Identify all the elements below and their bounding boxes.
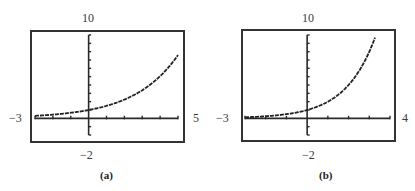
- xmax-label-a: 5: [193, 112, 199, 124]
- xmin-label-a: −3: [9, 112, 22, 124]
- caption-a: (a): [100, 170, 113, 181]
- graph-b-plot: [207, 0, 415, 191]
- graph-panel-a: 10 −2 −3 5 (a): [0, 0, 207, 191]
- graph-frame: [31, 31, 184, 142]
- xmax-label-b: 4: [402, 112, 408, 124]
- ymax-label-b: 10: [302, 12, 314, 24]
- graph-panel-b: 10 −2 −3 4 (b): [207, 0, 414, 191]
- exponential-curve: [245, 38, 375, 118]
- caption-b: (b): [319, 170, 332, 181]
- xmin-label-b: −3: [216, 112, 229, 124]
- ymin-label-a: −2: [80, 149, 93, 161]
- exponential-curve: [35, 55, 178, 116]
- graph-a-plot: [0, 0, 207, 191]
- ymax-label-a: 10: [82, 12, 94, 24]
- ymin-label-b: −2: [302, 149, 315, 161]
